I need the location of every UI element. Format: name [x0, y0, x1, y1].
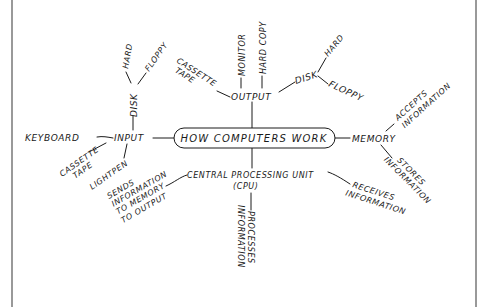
edge-cpu-sends	[166, 175, 187, 186]
node-input-disk-hard: HARD	[121, 43, 134, 70]
node-output-disk-floppy: FLOPPY	[327, 79, 366, 104]
center-node: HOW COMPUTERS WORK	[174, 128, 335, 148]
edge-input-lightpen	[124, 144, 127, 158]
edge-output-cassette	[217, 91, 230, 97]
node-input-disk-floppy: FLOPPY	[143, 40, 170, 73]
node-output: OUTPUT	[231, 92, 272, 102]
edge-idisk-hard	[126, 72, 131, 83]
mind-map-canvas: HOW COMPUTERS WORK INPUT KEYBOARD CASSET…	[0, 0, 488, 307]
node-memory: MEMORY	[352, 134, 397, 144]
edge-idisk-floppy	[138, 73, 146, 84]
output-branch: OUTPUT CASSETTE TAPE MONITOR HARD COPY D…	[170, 21, 366, 104]
node-cpu-line2: (CPU)	[233, 182, 259, 191]
edge-odisk-floppy	[318, 76, 328, 84]
edge-odisk-hard	[318, 58, 326, 72]
edge-output-disk	[279, 82, 295, 92]
node-processes-line1: PROCESSES	[246, 211, 255, 264]
node-input: INPUT	[114, 133, 145, 143]
edge-memory-accepts	[386, 124, 394, 131]
node-output-disk: DISK	[294, 69, 320, 86]
edge-input-keyboard	[97, 137, 113, 138]
cpu-branch: CENTRAL PROCESSING UNIT (CPU) SENDS INFO…	[106, 162, 411, 268]
edge-cpu-receives	[328, 172, 350, 184]
node-input-disk: DISK	[129, 93, 139, 117]
node-output-disk-hard: HARD	[323, 33, 346, 58]
node-keyboard: KEYBOARD	[25, 133, 80, 143]
node-processes-line2: INFORMATION	[236, 205, 245, 268]
center-node-label: HOW COMPUTERS WORK	[180, 133, 327, 144]
node-hard-copy: HARD COPY	[259, 21, 268, 74]
node-monitor: MONITOR	[238, 34, 247, 77]
node-cpu-line1: CENTRAL PROCESSING UNIT	[187, 171, 314, 180]
input-branch: INPUT KEYBOARD CASSETTE TAPE LIGHTPEN DI…	[25, 40, 170, 191]
